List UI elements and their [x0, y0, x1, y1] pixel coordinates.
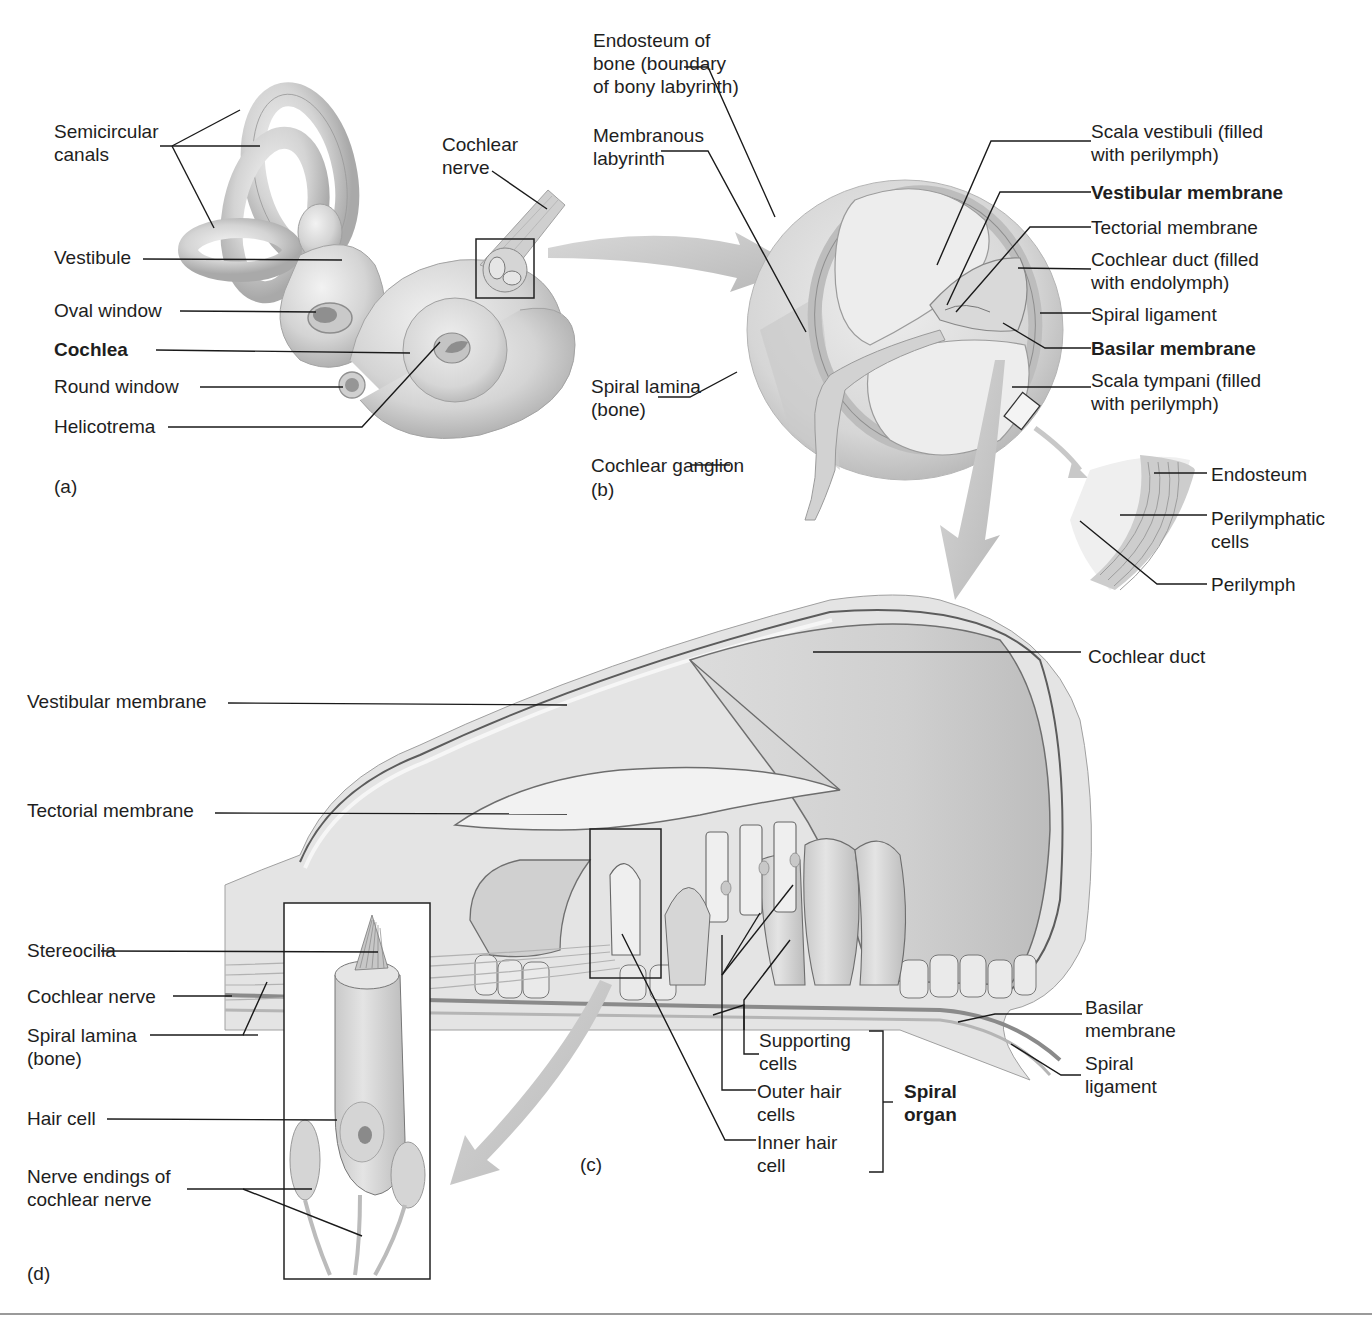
label-scala-vestibuli: Scala vestibuli (filled with perilymph)	[1091, 120, 1263, 166]
panel-letter-a: (a)	[54, 476, 77, 498]
label-membranous-labyrinth: Membranous labyrinth	[593, 124, 704, 170]
label-inner-hair-cell: Inner hair cell	[757, 1131, 837, 1177]
label-cochlea: Cochlea	[54, 338, 128, 361]
label-cochlear-ganglion: Cochlear ganglion	[591, 454, 744, 477]
panel-letter-d: (d)	[27, 1263, 50, 1285]
label-outer-hair-cells: Outer hair cells	[757, 1080, 841, 1126]
bottom-divider	[0, 1313, 1372, 1315]
label-endosteum: Endosteum	[1211, 463, 1307, 486]
label-spiral-ligament-c: Spiral ligament	[1085, 1052, 1157, 1098]
panel-d-artwork	[284, 903, 430, 1279]
label-cochlear-duct-c: Cochlear duct	[1088, 645, 1205, 668]
label-basilar-membrane-c: Basilar membrane	[1085, 996, 1176, 1042]
label-semicircular-canals: Semicircular canals	[54, 120, 159, 166]
label-vestibular-membrane-c: Vestibular membrane	[27, 690, 207, 713]
label-oval-window: Oval window	[54, 299, 162, 322]
label-vestibule: Vestibule	[54, 246, 131, 269]
label-tectorial-membrane-b: Tectorial membrane	[1091, 216, 1258, 239]
label-cochlear-nerve-d: Cochlear nerve	[27, 985, 156, 1008]
label-stereocilia: Stereocilia	[27, 939, 116, 962]
label-endosteum-of-bone: Endosteum of bone (boundary of bony laby…	[593, 29, 739, 98]
label-perilymphatic-cells: Perilymphatic cells	[1211, 507, 1325, 553]
label-spiral-lamina-b: Spiral lamina (bone)	[591, 375, 701, 421]
label-helicotrema: Helicotrema	[54, 415, 155, 438]
label-supporting-cells: Supporting cells	[759, 1029, 851, 1075]
label-round-window: Round window	[54, 375, 179, 398]
label-hair-cell: Hair cell	[27, 1107, 96, 1130]
label-basilar-membrane-b: Basilar membrane	[1091, 337, 1256, 360]
panel-letter-c: (c)	[580, 1154, 602, 1176]
panel-letter-b: (b)	[591, 479, 614, 501]
label-nerve-endings: Nerve endings of cochlear nerve	[27, 1165, 171, 1211]
cochlea-diagram: Semicircular canals Vestibule Oval windo…	[0, 0, 1372, 1326]
label-vestibular-membrane-b: Vestibular membrane	[1091, 181, 1283, 204]
label-scala-tympani: Scala tympani (filled with perilymph)	[1091, 369, 1261, 415]
label-perilymph: Perilymph	[1211, 573, 1295, 596]
panel-b-artwork	[747, 178, 1088, 600]
label-spiral-lamina-d: Spiral lamina (bone)	[27, 1024, 137, 1070]
label-spiral-ligament-b: Spiral ligament	[1091, 303, 1217, 326]
inset-endosteum-artwork	[1070, 455, 1195, 590]
label-cochlear-nerve-a: Cochlear nerve	[442, 133, 518, 179]
label-spiral-organ: Spiral organ	[904, 1080, 957, 1126]
label-cochlear-duct-b: Cochlear duct (filled with endolymph)	[1091, 248, 1259, 294]
label-tectorial-membrane-c: Tectorial membrane	[27, 799, 194, 822]
